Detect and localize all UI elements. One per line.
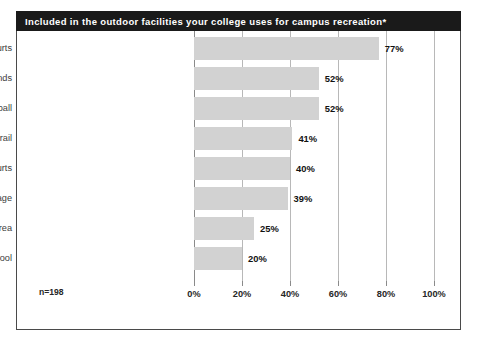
xtick-100 xyxy=(434,281,435,286)
bar: 20% xyxy=(194,247,242,270)
bar-row: Storage 39% xyxy=(17,187,460,217)
xtick-label-80: 80% xyxy=(377,289,395,299)
xtick-label-20: 20% xyxy=(233,289,251,299)
bar-row: Maintenance area 25% xyxy=(17,217,460,247)
xtick-20 xyxy=(242,281,243,286)
category-label: Maintenance area xyxy=(0,217,12,240)
bar-value-label: 77% xyxy=(385,37,404,60)
xtick-label-60: 60% xyxy=(329,289,347,299)
bar-container: 77% xyxy=(194,37,379,60)
chart-figure: Included in the outdoor facilities your … xyxy=(16,11,461,331)
bar-container: 40% xyxy=(194,157,290,180)
bar: 52% xyxy=(194,67,319,90)
xtick-label-0: 0% xyxy=(187,289,200,299)
bar-row: Tennis courts 77% xyxy=(17,37,460,67)
bar-container: 39% xyxy=(194,187,288,210)
xtick-60 xyxy=(338,281,339,286)
bar-container: 52% xyxy=(194,97,319,120)
bar-value-label: 41% xyxy=(298,127,317,150)
bar-row: Jogging track/trail 41% xyxy=(17,127,460,157)
bar-value-label: 52% xyxy=(325,97,344,120)
bar-row: Aquatics/pool 20% xyxy=(17,247,460,277)
bar-value-label: 40% xyxy=(296,157,315,180)
bar-series: Tennis courts 77% Bleachers/stands 52% S… xyxy=(17,37,460,277)
bar: 77% xyxy=(194,37,379,60)
bar-container: 41% xyxy=(194,127,292,150)
bar-container: 52% xyxy=(194,67,319,90)
category-label: Sand volleyball xyxy=(0,97,12,120)
xtick-40 xyxy=(290,281,291,286)
bar: 40% xyxy=(194,157,290,180)
bar: 41% xyxy=(194,127,292,150)
bar-value-label: 39% xyxy=(294,187,313,210)
xtick-label-100: 100% xyxy=(422,289,446,299)
bar-row: Bleachers/stands 52% xyxy=(17,67,460,97)
bar-value-label: 52% xyxy=(325,67,344,90)
bar-row: Basketball-size courts 40% xyxy=(17,157,460,187)
bar-container: 25% xyxy=(194,217,254,240)
bar: 39% xyxy=(194,187,288,210)
xtick-80 xyxy=(386,281,387,286)
chart-title-bar: Included in the outdoor facilities your … xyxy=(16,11,461,31)
bar: 52% xyxy=(194,97,319,120)
sample-size-annotation: n=198 xyxy=(39,287,64,297)
plot-area: Tennis courts 77% Bleachers/stands 52% S… xyxy=(16,31,461,330)
bar-value-label: 20% xyxy=(248,247,267,270)
category-label: Jogging track/trail xyxy=(0,127,12,150)
bar: 25% xyxy=(194,217,254,240)
category-label: Tennis courts xyxy=(0,37,12,60)
bar-row: Sand volleyball 52% xyxy=(17,97,460,127)
bar-value-label: 25% xyxy=(260,217,279,240)
xtick-0 xyxy=(194,281,195,286)
category-label: Bleachers/stands xyxy=(0,67,12,90)
category-label: Aquatics/pool xyxy=(0,247,12,270)
xtick-label-40: 40% xyxy=(281,289,299,299)
bar-container: 20% xyxy=(194,247,242,270)
category-label: Basketball-size courts xyxy=(0,157,12,180)
page-title: Included in the outdoor facilities your … xyxy=(25,16,386,27)
category-label: Storage xyxy=(0,187,12,210)
